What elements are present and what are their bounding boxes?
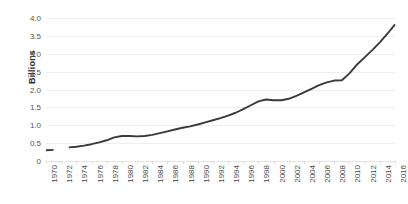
x-axis-tick [183, 161, 184, 164]
x-axis-tick [258, 161, 259, 164]
x-axis-tick [213, 161, 214, 164]
x-axis-tick [92, 161, 93, 164]
x-axis-tick [107, 161, 108, 164]
x-axis-tick [152, 161, 153, 164]
x-axis-tick-label: 1970 [50, 165, 59, 183]
data-series [46, 24, 395, 150]
x-axis-tick-label: 1982 [141, 165, 150, 183]
x-axis-tick [198, 161, 199, 164]
x-axis-tick [61, 161, 62, 164]
series-line [69, 24, 395, 147]
x-axis-tick [395, 161, 396, 164]
x-axis-tick-labels: 1970197219741976197819801982198419861988… [46, 165, 395, 204]
x-axis-tick [349, 161, 350, 164]
y-axis-tick-label: 1.0 [30, 121, 41, 130]
x-axis-tick-label: 1984 [156, 165, 165, 183]
x-axis-tick-label: 1994 [232, 165, 241, 183]
x-axis-tick-label: 1974 [80, 165, 89, 183]
x-axis-tick-label: 2014 [384, 165, 393, 183]
x-axis-tick [76, 161, 77, 164]
y-axis-tick-label: 0 [37, 157, 41, 166]
x-axis-tick-label: 1978 [111, 165, 120, 183]
x-axis-tick [137, 161, 138, 164]
x-axis-tick-label: 1980 [126, 165, 135, 183]
x-axis-tick-label: 2000 [278, 165, 287, 183]
series-svg [46, 18, 395, 161]
y-axis-tick-label: 4.0 [30, 14, 41, 23]
x-axis-tick-label: 2016 [399, 165, 408, 183]
x-axis-tick [243, 161, 244, 164]
y-axis-tick-label: 2.5 [30, 67, 41, 76]
x-axis-tick [46, 161, 47, 164]
y-axis-tick-label: 1.5 [30, 103, 41, 112]
y-axis-tick-label: 3.0 [30, 49, 41, 58]
y-axis-tick-label: 3.5 [30, 31, 41, 40]
x-axis-tick-label: 2004 [308, 165, 317, 183]
y-axis-tick-label: 2.0 [30, 85, 41, 94]
x-axis-tick-label: 1998 [262, 165, 271, 183]
x-axis-tick-label: 2002 [293, 165, 302, 183]
x-axis-tick-label: 1996 [247, 165, 256, 183]
x-axis-tick [228, 161, 229, 164]
x-axis-tick-label: 1986 [171, 165, 180, 183]
x-axis-tick-label: 2010 [353, 165, 362, 183]
x-axis-tick [274, 161, 275, 164]
x-axis-tick-label: 2008 [338, 165, 347, 183]
x-axis-tick [380, 161, 381, 164]
y-axis-tick-labels: 4.03.53.02.52.01.51.00.50 [0, 0, 46, 204]
x-axis-tick [122, 161, 123, 164]
x-axis-tick [289, 161, 290, 164]
x-axis-tick-label: 1992 [217, 165, 226, 183]
x-axis-tick [304, 161, 305, 164]
x-axis-tick-label: 2012 [369, 165, 378, 183]
x-axis-tick [167, 161, 168, 164]
plot-area [46, 18, 395, 161]
x-axis-tick-label: 2006 [323, 165, 332, 183]
x-axis-tick-label: 1988 [187, 165, 196, 183]
x-axis-tick [365, 161, 366, 164]
x-axis-tick [319, 161, 320, 164]
x-axis-tick [334, 161, 335, 164]
y-axis-tick-label: 0.5 [30, 139, 41, 148]
x-axis-tick-label: 1990 [202, 165, 211, 183]
x-axis-tick-label: 1976 [96, 165, 105, 183]
x-axis-tick-label: 1972 [65, 165, 74, 183]
